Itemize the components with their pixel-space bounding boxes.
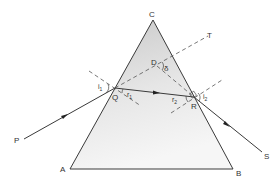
label-i2: i2 [203, 93, 208, 102]
label-d: D [151, 58, 157, 67]
label-t: T [207, 31, 212, 40]
label-delta: δ [164, 64, 169, 73]
label-c: C [149, 10, 155, 19]
label-s: S [264, 152, 269, 161]
label-q: Q [112, 93, 118, 102]
incident-arrow-icon [61, 114, 68, 119]
label-p: P [14, 136, 19, 145]
prism-triangle [70, 20, 233, 169]
angle-arc-i2 [198, 93, 200, 101]
prism-diagram: C A B P Q R S T D δ i1 r1 r2 i2 [0, 0, 279, 187]
label-r: R [191, 102, 197, 111]
label-i1: i1 [98, 83, 103, 92]
label-b: B [236, 169, 241, 178]
label-a: A [60, 165, 66, 174]
diagram-canvas: C A B P Q R S T D δ i1 r1 r2 i2 [0, 0, 279, 187]
